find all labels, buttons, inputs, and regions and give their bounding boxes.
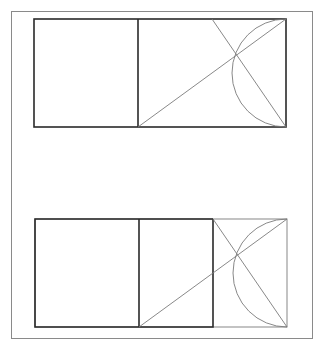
top-diagonal-short <box>212 19 286 127</box>
diagram-canvas <box>0 0 326 347</box>
bottom-diagonal-short <box>213 219 287 327</box>
outer-frame <box>12 12 313 339</box>
bottom-arc <box>233 219 287 327</box>
top-diagonal-long <box>138 19 286 127</box>
top-arc <box>232 19 286 127</box>
bottom-thick-outline <box>35 219 213 327</box>
top-panel <box>34 19 286 127</box>
bottom-panel <box>35 219 287 327</box>
